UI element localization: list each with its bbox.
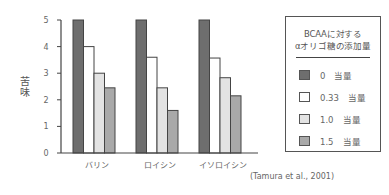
x-tick-label: バリン xyxy=(85,161,109,170)
legend: BCAAに対する αオリゴ糖の添加量 0 当量 0.33 当量 1.0 当量 1… xyxy=(285,16,381,152)
bar xyxy=(136,20,147,153)
legend-swatch xyxy=(299,70,310,80)
bar xyxy=(210,58,221,153)
bar xyxy=(84,47,95,153)
citation: (Tamura et al., 2001) xyxy=(250,172,334,181)
legend-swatch xyxy=(299,114,310,124)
legend-label: 0 当量 xyxy=(320,69,352,81)
legend-label: 0.33 当量 xyxy=(320,91,366,103)
legend-swatch xyxy=(299,92,310,102)
legend-item-0: 0 当量 xyxy=(286,64,380,86)
y-tick-label: 1 xyxy=(43,122,48,131)
bar xyxy=(157,88,168,153)
y-tick-label: 5 xyxy=(43,16,48,25)
y-tick-label: 3 xyxy=(43,69,48,78)
legend-label: 1.5 当量 xyxy=(320,135,361,147)
bar xyxy=(73,20,84,153)
y-axis-label: 苦味 xyxy=(16,76,31,98)
x-tick-label: イソロイシン xyxy=(199,161,247,170)
legend-divider xyxy=(296,57,370,58)
legend-item-2: 1.0 当量 xyxy=(286,108,380,130)
legend-swatch xyxy=(299,136,310,146)
bar xyxy=(94,73,105,153)
legend-item-1: 0.33 当量 xyxy=(286,86,380,108)
legend-title: BCAAに対する αオリゴ糖の添加量 xyxy=(286,28,380,52)
y-tick-label: 4 xyxy=(43,43,48,52)
y-tick-label: 0 xyxy=(43,149,48,158)
x-tick-label: ロイシン xyxy=(144,161,176,170)
legend-label: 1.0 当量 xyxy=(320,113,361,125)
bar xyxy=(147,57,158,153)
y-tick-label: 2 xyxy=(43,96,48,105)
legend-title-line2: αオリゴ糖の添加量 xyxy=(286,40,380,52)
bar xyxy=(105,88,116,153)
legend-title-line1: BCAAに対する xyxy=(286,28,380,40)
bar xyxy=(199,20,210,153)
bar xyxy=(231,96,242,153)
bar xyxy=(220,78,231,153)
legend-item-3: 1.5 当量 xyxy=(286,130,380,152)
bar xyxy=(168,110,179,153)
